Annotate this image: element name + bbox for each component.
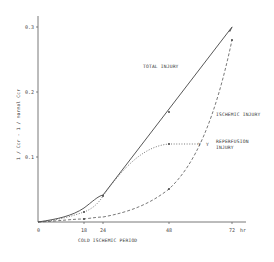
x-tick-18: 18 — [81, 227, 87, 233]
svg-text:Y: Y — [198, 142, 201, 147]
injury-chart: 0.3 0.2 0.1 0 18 24 48 72 hr COLD ISCHEM… — [0, 0, 274, 262]
x-tick-72: 72 — [229, 227, 235, 233]
label-reperfusion-injury-2: INJURY — [216, 145, 234, 150]
x-tick-48: 48 — [166, 227, 172, 233]
x-unit: hr — [240, 227, 246, 233]
series-total-injury — [38, 27, 232, 222]
series-reperfusion-injury — [38, 144, 200, 222]
y-tick-0.1: 0.1 — [25, 154, 34, 160]
y-tick-0.2: 0.2 — [25, 89, 34, 95]
x-axis-label: COLD ISCHEMIC PERIOD — [78, 238, 137, 243]
y-axis-label: 1 / Ccr - 1 / normal Ccr — [16, 89, 21, 160]
y-tick-0.3: 0.3 — [25, 24, 34, 30]
label-reperfusion-injury-1: REPERFUSION — [216, 139, 249, 144]
series-ischemic-injury — [38, 40, 232, 222]
label-ischemic-injury: ISCHEMIC INJURY — [216, 112, 261, 117]
svg-text:Y: Y — [206, 142, 209, 147]
x-tick-0: 0 — [37, 227, 40, 233]
label-total-injury: TOTAL INJURY — [143, 64, 179, 69]
x-tick-24: 24 — [100, 227, 106, 233]
